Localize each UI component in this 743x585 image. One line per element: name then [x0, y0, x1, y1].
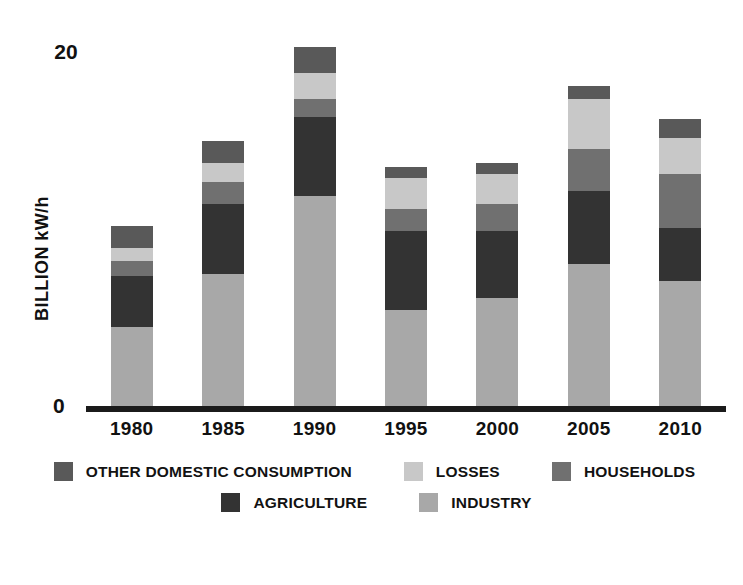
bar-segment-losses-1995: [385, 178, 427, 209]
bar-segment-agriculture-2010: [659, 228, 701, 281]
chart-legend: OTHER DOMESTIC CONSUMPTIONLOSSESHOUSEHOL…: [0, 462, 743, 524]
bar-segment-industry-1995: [385, 310, 427, 408]
bar-segment-other-domestic-consumption-1995: [385, 167, 427, 178]
bar-segment-other-domestic-consumption-2010: [659, 119, 701, 137]
bar-segment-other-domestic-consumption-1980: [111, 226, 153, 248]
plot-area: [86, 40, 726, 408]
y-axis-tick-0: 0: [53, 394, 65, 418]
bar-2000[interactable]: [476, 163, 518, 408]
legend-label-other-domestic-consumption: OTHER DOMESTIC CONSUMPTION: [86, 463, 352, 481]
bar-1980[interactable]: [111, 226, 153, 408]
bar-segment-households-1985: [202, 182, 244, 204]
stacked-bar-chart: 20 0 BILLION kW/h 1980198519901995200020…: [0, 0, 743, 585]
legend-label-agriculture: AGRICULTURE: [253, 494, 367, 512]
legend-label-households: HOUSEHOLDS: [584, 463, 695, 481]
bar-segment-industry-1985: [202, 274, 244, 408]
legend-item-losses[interactable]: LOSSES: [404, 462, 500, 481]
bar-segment-households-2000: [476, 204, 518, 232]
bar-segment-agriculture-2000: [476, 231, 518, 297]
bar-1990[interactable]: [294, 47, 336, 408]
bar-segment-losses-2000: [476, 174, 518, 203]
legend-swatch-industry: [419, 493, 438, 512]
bar-segment-agriculture-2005: [568, 191, 610, 265]
legend-item-other-domestic-consumption[interactable]: OTHER DOMESTIC CONSUMPTION: [54, 462, 352, 481]
bar-segment-households-2010: [659, 174, 701, 227]
x-axis-baseline: [86, 406, 726, 412]
legend-label-losses: LOSSES: [436, 463, 500, 481]
bar-segment-losses-1990: [294, 73, 336, 99]
bar-segment-households-1995: [385, 209, 427, 231]
bar-segment-industry-1990: [294, 196, 336, 408]
legend-swatch-other-domestic-consumption: [54, 462, 73, 481]
bar-segment-households-1980: [111, 261, 153, 276]
bar-segment-losses-2005: [568, 99, 610, 149]
x-axis-label-1990: 1990: [275, 418, 355, 440]
legend-item-agriculture[interactable]: AGRICULTURE: [221, 493, 367, 512]
bar-segment-households-2005: [568, 149, 610, 191]
x-axis-label-1985: 1985: [183, 418, 263, 440]
legend-item-households[interactable]: HOUSEHOLDS: [552, 462, 695, 481]
bar-segment-agriculture-1980: [111, 276, 153, 328]
x-axis-label-2000: 2000: [457, 418, 537, 440]
bar-segment-agriculture-1985: [202, 204, 244, 274]
bar-segment-other-domestic-consumption-2005: [568, 86, 610, 99]
y-axis-tick-20: 20: [54, 40, 78, 64]
legend-row-2: AGRICULTUREINDUSTRY: [0, 493, 743, 512]
bar-segment-households-1990: [294, 99, 336, 117]
bar-segment-industry-2000: [476, 298, 518, 408]
bar-segment-other-domestic-consumption-1990: [294, 47, 336, 73]
bar-segment-agriculture-1995: [385, 231, 427, 310]
legend-label-industry: INDUSTRY: [451, 494, 531, 512]
bar-segment-losses-1985: [202, 163, 244, 181]
bar-2005[interactable]: [568, 86, 610, 408]
legend-swatch-households: [552, 462, 571, 481]
bar-1985[interactable]: [202, 141, 244, 408]
legend-item-industry[interactable]: INDUSTRY: [419, 493, 531, 512]
bar-segment-industry-1980: [111, 327, 153, 408]
x-axis-label-1980: 1980: [92, 418, 172, 440]
legend-swatch-losses: [404, 462, 423, 481]
bar-segment-losses-2010: [659, 138, 701, 175]
x-axis-label-1995: 1995: [366, 418, 446, 440]
y-axis-title: BILLION kW/h: [32, 179, 53, 339]
bar-segment-industry-2005: [568, 264, 610, 408]
legend-swatch-agriculture: [221, 493, 240, 512]
bar-1995[interactable]: [385, 167, 427, 408]
x-axis-label-2010: 2010: [640, 418, 720, 440]
bar-2010[interactable]: [659, 119, 701, 408]
bar-segment-losses-1980: [111, 248, 153, 261]
bar-segment-industry-2010: [659, 281, 701, 408]
bar-segment-agriculture-1990: [294, 117, 336, 196]
bar-segment-other-domestic-consumption-2000: [476, 163, 518, 174]
bar-segment-other-domestic-consumption-1985: [202, 141, 244, 163]
legend-row-1: OTHER DOMESTIC CONSUMPTIONLOSSESHOUSEHOL…: [0, 462, 743, 481]
x-axis-label-2005: 2005: [549, 418, 629, 440]
